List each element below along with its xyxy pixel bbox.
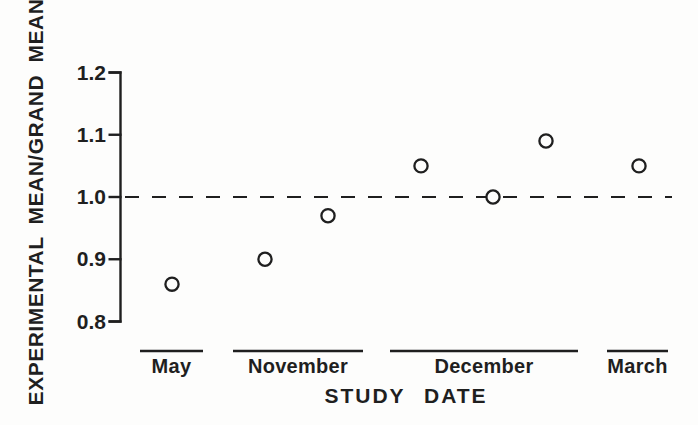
- data-point-may: [165, 278, 178, 291]
- data-point-november: [258, 253, 271, 266]
- data-point-december: [539, 134, 552, 147]
- data-point-november: [321, 209, 334, 222]
- y-tick-label: 0.8: [46, 309, 106, 335]
- x-group-label-december: December: [434, 355, 533, 378]
- x-axis-label: STUDY DATE: [324, 384, 487, 408]
- figure: EXPERIMENTAL MEAN/GRAND MEAN STUDY DATE …: [0, 0, 698, 425]
- data-point-march: [632, 159, 645, 172]
- y-tick-label: 1.2: [46, 60, 106, 86]
- y-axis-label: EXPERIMENTAL MEAN/GRAND MEAN: [24, 0, 48, 405]
- x-group-label-may: May: [152, 355, 192, 378]
- x-group-label-november: November: [248, 355, 348, 378]
- data-point-december: [486, 190, 499, 203]
- y-tick-label: 0.9: [46, 246, 106, 272]
- x-group-label-march: March: [607, 355, 667, 378]
- y-tick-label: 1.0: [46, 184, 106, 210]
- y-tick-label: 1.1: [46, 122, 106, 148]
- data-point-december: [414, 159, 427, 172]
